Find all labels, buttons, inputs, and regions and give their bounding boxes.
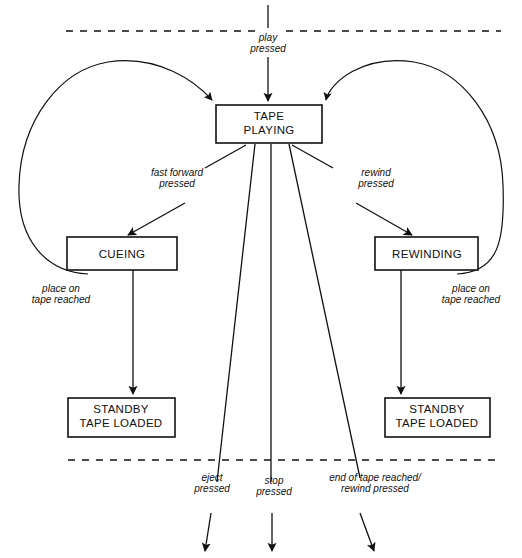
svg-text:pressed: pressed [249, 43, 286, 54]
svg-text:pressed: pressed [158, 178, 195, 189]
svg-text:rewind: rewind [361, 167, 391, 178]
end-of-tape-bottom-arrow [360, 513, 374, 551]
fast-forward-arrow [128, 203, 185, 235]
svg-text:eject: eject [201, 472, 223, 483]
state-box-standby-right[interactable]: STANDBY TAPE LOADED [385, 398, 490, 437]
eject-bottom-arrow [205, 513, 211, 551]
standby-right-label-line1: STANDBY [409, 403, 465, 415]
rewind-arrow [356, 203, 412, 235]
svg-text:stop: stop [265, 475, 284, 486]
rewinding-label: REWINDING [392, 248, 462, 260]
svg-text:tape reached: tape reached [442, 294, 501, 305]
state-box-tape-playing[interactable]: TAPE PLAYING [216, 105, 322, 143]
state-box-cueing[interactable]: CUEING [67, 237, 177, 270]
state-diagram-canvas: TAPE PLAYING CUEING REWINDING STANDBY TA… [0, 0, 522, 558]
label-place-on-tape-reached-right: place on tape reached [442, 283, 501, 305]
state-box-standby-left[interactable]: STANDBY TAPE LOADED [68, 398, 175, 437]
tape-playing-label-line1: TAPE [254, 110, 284, 122]
rewind-stub [292, 145, 333, 168]
standby-left-label-line1: STANDBY [93, 403, 149, 415]
svg-text:place on: place on [41, 283, 80, 294]
cueing-label: CUEING [99, 248, 146, 260]
end-of-tape-exit-line [289, 144, 360, 478]
eject-exit-line [217, 144, 255, 482]
label-play-pressed: play pressed [249, 32, 286, 54]
svg-text:rewind pressed: rewind pressed [341, 483, 409, 494]
state-box-rewinding[interactable]: REWINDING [375, 237, 478, 270]
state-diagram: TAPE PLAYING CUEING REWINDING STANDBY TA… [0, 0, 522, 558]
label-stop-pressed: stop pressed [255, 475, 292, 497]
svg-text:pressed: pressed [193, 483, 230, 494]
svg-text:place on: place on [451, 283, 490, 294]
label-eject-pressed: eject pressed [193, 472, 230, 494]
svg-text:play: play [258, 32, 278, 43]
standby-left-label-line2: TAPE LOADED [80, 417, 163, 429]
svg-text:pressed: pressed [255, 486, 292, 497]
tape-playing-label-line2: PLAYING [243, 124, 294, 136]
svg-text:pressed: pressed [357, 178, 394, 189]
standby-right-label-line2: TAPE LOADED [396, 417, 479, 429]
label-fast-forward-pressed: fast forward pressed [151, 167, 204, 189]
svg-text:fast forward: fast forward [151, 167, 204, 178]
label-place-on-tape-reached-left: place on tape reached [32, 283, 91, 305]
label-end-of-tape-reached: end of tape reached/ rewind pressed [329, 472, 422, 494]
label-rewind-pressed: rewind pressed [357, 167, 394, 189]
fast-forward-stub [205, 145, 246, 168]
svg-text:end of tape reached/: end of tape reached/ [329, 472, 422, 483]
svg-text:tape reached: tape reached [32, 294, 91, 305]
